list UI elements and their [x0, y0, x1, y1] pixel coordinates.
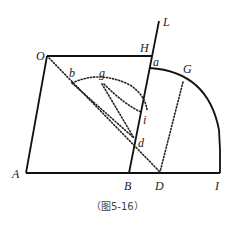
- dotted-line-bd: [72, 83, 134, 138]
- label-A: A: [11, 167, 20, 181]
- figure-caption: （图5-16）: [91, 201, 144, 212]
- arc-aI: [150, 68, 220, 173]
- label-i: i: [143, 113, 146, 127]
- label-H: H: [139, 41, 150, 55]
- label-g: g: [99, 66, 105, 80]
- label-G: G: [183, 62, 192, 76]
- label-I: I: [214, 179, 220, 193]
- line-OA: [26, 56, 47, 173]
- label-a: a: [153, 55, 159, 69]
- figure-svg: O H L a G b g i d A B D I （图5-16）: [0, 0, 237, 231]
- label-L: L: [162, 15, 170, 29]
- label-D: D: [154, 179, 164, 193]
- label-d: d: [138, 136, 145, 150]
- dotted-line-GD: [160, 82, 183, 172]
- geometry-figure: O H L a G b g i d A B D I （图5-16）: [0, 0, 237, 231]
- label-B: B: [124, 179, 132, 193]
- label-b: b: [69, 66, 75, 80]
- label-O: O: [36, 49, 45, 63]
